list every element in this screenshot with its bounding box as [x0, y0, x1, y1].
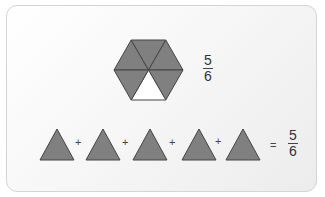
plus-sign: +	[169, 137, 175, 148]
plus-sign: +	[215, 136, 221, 147]
result-fraction: 5 6	[288, 129, 298, 158]
plus-sign: +	[122, 137, 128, 148]
plus-sign: +	[75, 137, 81, 148]
hexagon-fraction: 5 6	[203, 54, 213, 83]
triangle-icon	[133, 129, 167, 160]
hexagon-icon	[114, 40, 183, 100]
equation-triangles	[40, 129, 260, 160]
fraction-denominator: 6	[289, 145, 297, 158]
fraction-diagram	[0, 0, 325, 197]
fraction-numerator: 5	[204, 54, 212, 67]
triangle-icon	[40, 129, 74, 160]
fraction-denominator: 6	[204, 70, 212, 83]
fraction-numerator: 5	[289, 129, 297, 142]
triangle-icon	[226, 129, 260, 160]
triangle-icon	[86, 129, 120, 160]
triangle-icon	[182, 129, 216, 160]
equals-sign: =	[270, 140, 276, 151]
